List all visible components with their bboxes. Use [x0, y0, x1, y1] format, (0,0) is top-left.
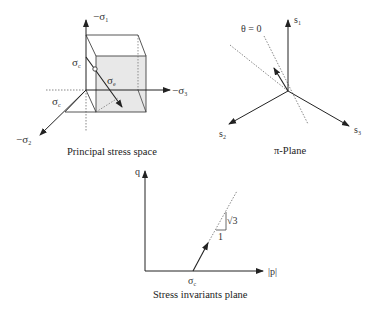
cube-front-face — [96, 56, 146, 112]
cube-edge — [138, 35, 146, 56]
theta-zero-line — [264, 36, 308, 124]
sigma1-label: −σ — [93, 10, 105, 22]
stress-invariants-caption: Stress invariants plane — [153, 289, 248, 300]
q-axis-label: q — [135, 166, 140, 177]
sigma2-axis — [40, 90, 86, 135]
dotted-reference-line — [230, 45, 288, 91]
cube-edge — [86, 35, 96, 56]
slope-rise-label: √3 — [227, 215, 238, 226]
s3-axis — [288, 91, 349, 126]
sigma2-label: −σ — [16, 133, 28, 145]
pi-plane-caption: π-Plane — [274, 145, 306, 156]
slope-run-label: 1 — [218, 231, 223, 242]
svg-text:σc: σc — [52, 95, 61, 108]
svg-text:σc: σc — [188, 275, 196, 287]
failure-line-arrow — [193, 243, 208, 271]
cube-edge — [86, 90, 96, 112]
svg-text:−σ3: −σ3 — [172, 84, 187, 97]
sigma-e-point — [93, 67, 97, 71]
theta-zero-label: θ = 0 — [241, 23, 261, 34]
svg-text:s1: s1 — [294, 14, 301, 26]
stress-invariants-panel: q |p| σc √3 1 Stress invariants plane — [135, 166, 277, 300]
pi-plane-panel: θ = 0 s1 s2 s3 π-Plane — [219, 14, 361, 156]
svg-text:s2: s2 — [219, 128, 226, 140]
svg-text:s3: s3 — [354, 124, 361, 136]
svg-text:σc: σc — [72, 56, 81, 69]
s2-axis — [229, 91, 288, 124]
svg-text:−σ1: −σ1 — [93, 10, 108, 23]
slope-triangle — [216, 212, 226, 230]
principal-stress-space-caption: Principal stress space — [67, 146, 157, 157]
diagram-canvas: −σ1 −σ3 −σ2 σc σc σe Principal stress sp… — [0, 0, 377, 312]
p-axis-label: |p| — [268, 266, 277, 277]
sigma3-label: −σ — [172, 84, 184, 96]
principal-stress-space-panel: −σ1 −σ3 −σ2 σc σc σe Principal stress sp… — [16, 10, 187, 157]
svg-text:−σ2: −σ2 — [16, 133, 31, 146]
